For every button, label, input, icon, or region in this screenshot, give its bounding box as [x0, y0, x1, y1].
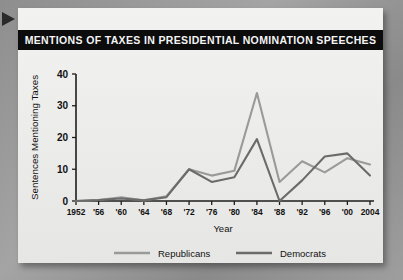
chart-card: MENTIONS OF TAXES IN PRESIDENTIAL NOMINA…	[18, 8, 383, 263]
x-axis-tick-label: '92	[296, 207, 308, 217]
y-axis-label: Sentences Mentioning Taxes	[29, 75, 40, 200]
triangle-pointer-icon	[2, 12, 15, 26]
y-axis-tick-label: 10	[57, 164, 69, 175]
x-axis-tick-label: '96	[319, 207, 331, 217]
legend-label-democrats: Democrats	[280, 248, 326, 259]
chart-plot-area: 0102030401952'56'60'64'68'72'76'80'84'88…	[18, 50, 383, 263]
y-axis-tick-label: 20	[57, 132, 69, 143]
page-title: MENTIONS OF TAXES IN PRESIDENTIAL NOMINA…	[25, 34, 377, 46]
x-axis-label: Year	[213, 223, 232, 234]
x-axis-tick-label: 2004	[361, 207, 380, 217]
chart-title-bar: MENTIONS OF TAXES IN PRESIDENTIAL NOMINA…	[18, 30, 383, 50]
line-chart: 0102030401952'56'60'64'68'72'76'80'84'88…	[18, 50, 383, 263]
y-axis-tick-label: 40	[57, 69, 69, 80]
x-axis-tick-label: '00	[342, 207, 354, 217]
x-axis-tick-label: '56	[93, 207, 105, 217]
y-axis-tick-label: 0	[62, 196, 68, 207]
x-axis-tick-label: '84	[251, 207, 263, 217]
x-axis-tick-label: '80	[229, 207, 241, 217]
x-axis-tick-label: '88	[274, 207, 286, 217]
series-line-republicans	[76, 93, 370, 201]
legend-label-republicans: Republicans	[158, 248, 211, 259]
x-axis-tick-label: '72	[183, 207, 195, 217]
series-line-democrats	[76, 139, 370, 201]
x-axis-tick-label: 1952	[67, 207, 86, 217]
x-axis-tick-label: '76	[206, 207, 218, 217]
x-axis-tick-label: '68	[161, 207, 173, 217]
x-axis-tick-label: '60	[116, 207, 128, 217]
x-axis-tick-label: '64	[138, 207, 150, 217]
y-axis-tick-label: 30	[57, 100, 69, 111]
